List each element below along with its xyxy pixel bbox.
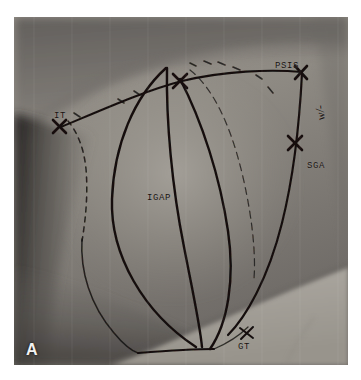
label-gt: GT [238, 343, 250, 352]
clinical-photograph: PSIS IT SGA IGAP GT w/- A [14, 17, 348, 365]
label-sga: SGA [307, 162, 325, 171]
figure-container: PSIS IT SGA IGAP GT w/- A [0, 0, 361, 380]
label-psis: PSIS [275, 62, 299, 71]
panel-letter: A [26, 342, 38, 358]
label-it: IT [54, 112, 66, 121]
label-igap: IGAP [147, 194, 171, 203]
label-handwritten-scribble: w/- [313, 104, 327, 121]
